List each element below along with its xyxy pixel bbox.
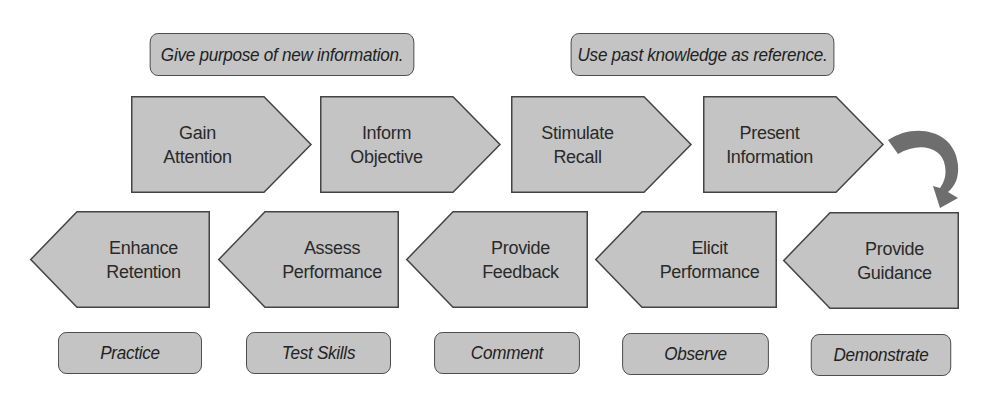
step-line2: Guidance [857, 261, 932, 285]
bottom-label-text: Test Skills [282, 342, 355, 364]
step-elicit-performance: Elicit Performance [595, 211, 777, 308]
step-line1: Inform [362, 121, 411, 145]
step-line1: Present [740, 121, 800, 145]
bottom-label-text: Comment [471, 342, 543, 364]
step-enhance-retention: Enhance Retention [30, 211, 210, 308]
bottom-label-text: Observe [664, 343, 727, 365]
step-stimulate-recall: Stimulate Recall [511, 96, 692, 193]
step-line2: Performance [660, 260, 760, 284]
step-line2: Information [726, 145, 813, 169]
bottom-label-comment: Comment [434, 332, 580, 374]
curved-down-arrow-icon [860, 120, 970, 219]
step-line2: Feedback [482, 260, 559, 284]
step-line1: Enhance [109, 236, 178, 260]
top-label-purpose: Give purpose of new information. [150, 33, 415, 76]
bottom-label-test-skills: Test Skills [246, 332, 391, 374]
step-provide-guidance: Provide Guidance [783, 212, 959, 309]
step-inform-objective: Inform Objective [320, 96, 501, 193]
step-line2: Performance [282, 260, 382, 284]
step-line2: Attention [163, 145, 231, 169]
bottom-label-text: Practice [100, 342, 160, 364]
step-line1: Stimulate [541, 121, 613, 145]
step-assess-performance: Assess Performance [218, 211, 399, 308]
step-line1: Gain [179, 121, 216, 145]
top-label-text: Use past knowledge as reference. [578, 44, 828, 66]
step-line2: Retention [106, 260, 180, 284]
step-present-information: Present Information [703, 96, 884, 193]
top-label-text: Give purpose of new information. [161, 44, 403, 66]
step-line1: Assess [304, 236, 360, 260]
bottom-label-observe: Observe [622, 333, 769, 375]
step-gain-attention: Gain Attention [131, 96, 312, 193]
bottom-label-text: Demonstrate [834, 344, 929, 366]
step-line2: Recall [553, 145, 601, 169]
step-line1: Elicit [691, 236, 727, 260]
step-line1: Provide [865, 237, 924, 261]
bottom-label-demonstrate: Demonstrate [811, 334, 951, 376]
top-label-past-knowledge: Use past knowledge as reference. [571, 33, 835, 76]
step-line1: Provide [491, 236, 550, 260]
step-provide-feedback: Provide Feedback [406, 211, 588, 308]
step-line2: Objective [350, 145, 422, 169]
bottom-label-practice: Practice [58, 332, 202, 374]
